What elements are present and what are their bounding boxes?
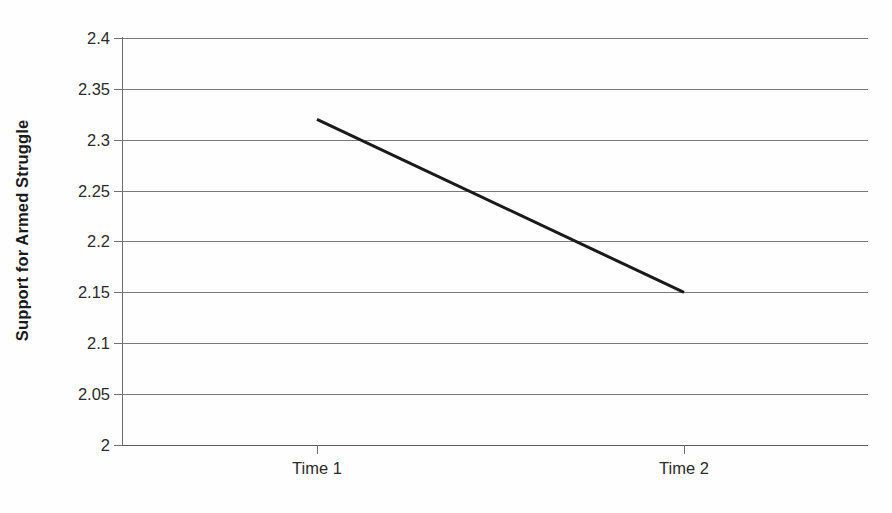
gridline (122, 38, 868, 39)
y-axis-title-label: Support for Armed Struggle (14, 119, 33, 340)
y-tick-label: 2.3 (36, 132, 110, 149)
line-chart: Support for Armed Struggle 2.4 2.35 2.3 … (0, 0, 892, 513)
x-axis-line (122, 445, 868, 446)
gridline (122, 191, 868, 192)
x-tick-label: Time 1 (237, 460, 397, 477)
gridline (122, 343, 868, 344)
y-tick-label: 2.35 (36, 81, 110, 98)
x-tick-mark (317, 445, 318, 454)
y-tick-label: 2.4 (36, 30, 110, 47)
y-axis-tick-labels: 2.4 2.35 2.3 2.25 2.2 2.15 2.1 2.05 2 (36, 0, 110, 513)
x-tick-label: Time 2 (604, 460, 764, 477)
gridline (122, 140, 868, 141)
y-tick-label: 2.2 (36, 233, 110, 250)
plot-area (122, 38, 868, 445)
x-tick-mark (684, 445, 685, 454)
gridline (122, 292, 868, 293)
gridline (122, 241, 868, 242)
y-tick-label: 2 (36, 437, 110, 454)
y-tick-label: 2.1 (36, 335, 110, 352)
y-tick-label: 2.25 (36, 183, 110, 200)
gridline (122, 394, 868, 395)
y-tick-label: 2.05 (36, 386, 110, 403)
gridline (122, 89, 868, 90)
y-tick-label: 2.15 (36, 284, 110, 301)
